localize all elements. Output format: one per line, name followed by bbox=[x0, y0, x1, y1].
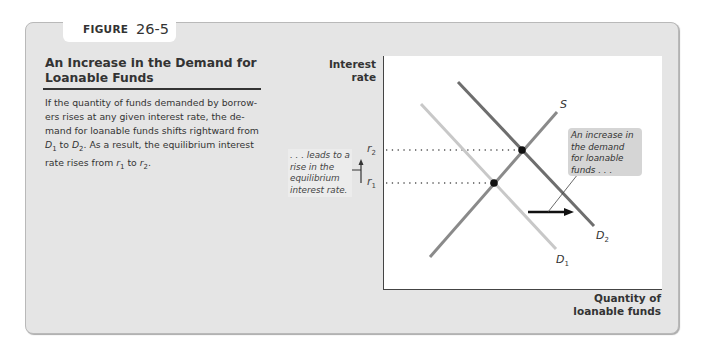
d1-sub: 1 bbox=[564, 260, 568, 268]
tick-r1-sub: 1 bbox=[372, 182, 376, 190]
x-axis-label-line1: Quantity of bbox=[594, 292, 661, 304]
tick-r2: r2 bbox=[367, 142, 376, 157]
d1-curve-label: D1 bbox=[556, 253, 569, 268]
equilibrium-point-r2 bbox=[518, 146, 526, 154]
x-axis-label-line2: loanable funds bbox=[573, 305, 661, 317]
rise-arrow-head-icon bbox=[359, 159, 364, 165]
demand-curve-d1 bbox=[421, 104, 556, 249]
d2-curve-label: D2 bbox=[596, 229, 609, 244]
equilibrium-point-r1 bbox=[490, 179, 498, 187]
demand-increase-callout: An increase in the demand for loanable f… bbox=[568, 128, 642, 176]
d2-sub: 2 bbox=[604, 236, 608, 244]
tick-r1: r1 bbox=[367, 175, 376, 190]
tick-r2-sub: 2 bbox=[372, 149, 376, 157]
supply-curve-label: S bbox=[560, 98, 567, 111]
x-axis-label: Quantity ofloanable funds bbox=[560, 292, 661, 318]
shift-arrow-head-icon bbox=[564, 208, 574, 216]
rate-rise-note: . . . leads to a rise in the equilibrium… bbox=[288, 149, 352, 197]
